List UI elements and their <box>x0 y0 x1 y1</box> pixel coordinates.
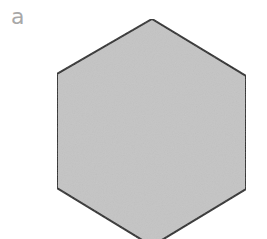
hexagon-figure <box>0 0 267 239</box>
hexagon-shape <box>57 19 246 239</box>
